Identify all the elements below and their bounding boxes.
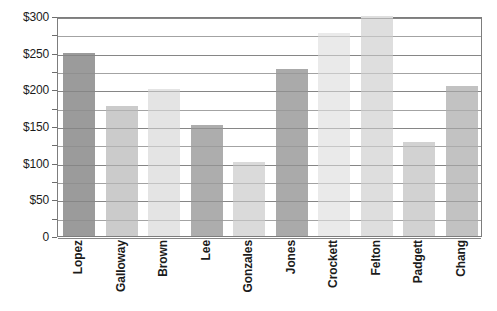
x-axis-tick-label-felton: Felton (369, 240, 383, 275)
bar-chang (446, 86, 478, 236)
bar-brown (148, 89, 180, 236)
y-axis-tick-mark (52, 35, 57, 36)
x-axis-category-slot: Crockett (312, 240, 355, 306)
y-axis-tick-label: 0 (43, 230, 49, 244)
y-axis: 0$50$100$150$200$250$300 (0, 0, 53, 311)
x-axis-tick-label-gonzales: Gonzales (241, 240, 255, 293)
x-axis-tick-label-crockett: Crockett (326, 240, 340, 288)
x-axis-tick-label-galloway: Galloway (114, 240, 128, 292)
y-axis-tick-mark (52, 54, 57, 55)
x-axis-tick-label-brown: Brown (156, 240, 170, 277)
y-axis-tick-mark (52, 72, 57, 73)
x-axis-category-slot: Galloway (100, 240, 143, 306)
x-axis-category-slot: Gonzales (227, 240, 270, 306)
x-axis-category-slot: Lee (185, 240, 228, 306)
gridline (58, 238, 481, 239)
y-axis-tick-label: $200 (23, 83, 49, 97)
y-axis-tick-mark (52, 90, 57, 91)
x-axis-tick-label-lopez: Lopez (71, 240, 85, 274)
y-axis-tick-mark (52, 200, 57, 201)
x-axis-tick-label-lee: Lee (199, 240, 213, 260)
y-axis-tick-mark (52, 145, 57, 146)
x-axis: LopezGallowayBrownLeeGonzalesJonesCrocke… (57, 240, 482, 306)
bar-crockett (318, 33, 350, 236)
x-axis-category-slot: Felton (355, 240, 398, 306)
bar-galloway (106, 106, 138, 236)
y-axis-tick-mark (52, 182, 57, 183)
y-axis-tick-label: $150 (23, 120, 49, 134)
x-axis-tick-label-chang: Chang (454, 240, 468, 277)
x-axis-tick-label-jones: Jones (284, 240, 298, 274)
y-axis-tick-label: $250 (23, 47, 49, 61)
plot-area (57, 17, 482, 237)
bar-chart-figure: 0$50$100$150$200$250$300 LopezGallowayBr… (0, 0, 497, 311)
bar-lopez (63, 53, 95, 236)
y-axis-tick-label: $300 (23, 10, 49, 24)
x-axis-category-slot: Padgett (397, 240, 440, 306)
bar-lee (191, 125, 223, 236)
bar-felton (361, 16, 393, 236)
y-axis-tick-label: $50 (30, 193, 49, 207)
y-axis-tick-mark (52, 164, 57, 165)
bar-jones (276, 69, 308, 236)
bars-container (58, 18, 481, 236)
bar-gonzales (233, 162, 265, 236)
x-axis-category-slot: Jones (270, 240, 313, 306)
y-axis-tick-mark (52, 219, 57, 220)
x-axis-tick-label-padgett: Padgett (411, 240, 425, 283)
x-axis-category-slot: Brown (142, 240, 185, 306)
bar-padgett (403, 142, 435, 236)
y-axis-tick-label: $100 (23, 157, 49, 171)
x-axis-category-slot: Lopez (57, 240, 100, 306)
x-axis-category-slot: Chang (440, 240, 483, 306)
y-axis-tick-mark (52, 127, 57, 128)
y-axis-tick-mark (52, 17, 57, 18)
y-axis-tick-mark (52, 237, 57, 238)
y-axis-tick-mark (52, 109, 57, 110)
